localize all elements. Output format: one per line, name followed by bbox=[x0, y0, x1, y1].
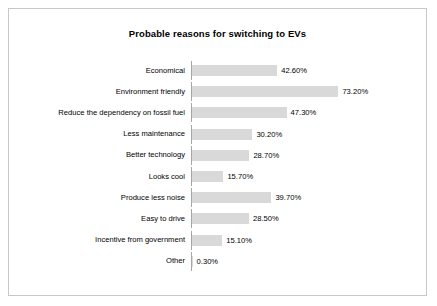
bar-track: 28.70% bbox=[191, 146, 426, 165]
bar-category-label: Looks cool bbox=[9, 173, 191, 181]
bar bbox=[192, 86, 338, 97]
bar-value-label: 73.20% bbox=[342, 87, 368, 96]
bar-row: Other0.30% bbox=[9, 252, 426, 271]
bar-row: Looks cool15.70% bbox=[9, 167, 426, 186]
bar-track: 47.30% bbox=[191, 103, 426, 122]
bar-category-label: Environment friendly bbox=[9, 88, 191, 96]
bar-row: Easy to drive28.50% bbox=[9, 209, 426, 228]
bar-value-label: 47.30% bbox=[291, 108, 317, 117]
bar-value-label: 42.60% bbox=[281, 66, 307, 75]
bar bbox=[192, 171, 223, 182]
bar-value-label: 39.70% bbox=[275, 193, 301, 202]
bar-row: Environment friendly73.20% bbox=[9, 82, 426, 101]
bar-track: 15.70% bbox=[191, 167, 426, 186]
bar-category-label: Incentive from government bbox=[9, 236, 191, 244]
bar-category-label: Other bbox=[9, 257, 191, 265]
bar bbox=[192, 213, 249, 224]
bar-value-label: 30.20% bbox=[256, 130, 282, 139]
bar-track: 0.30% bbox=[191, 252, 426, 271]
bar-track: 30.20% bbox=[191, 125, 426, 144]
bar bbox=[192, 235, 222, 246]
chart-title: Probable reasons for switching to EVs bbox=[9, 28, 426, 39]
bar-track: 15.10% bbox=[191, 231, 426, 250]
bar-value-label: 28.50% bbox=[253, 214, 279, 223]
chart-card: Probable reasons for switching to EVs Ec… bbox=[8, 8, 427, 296]
bar-category-label: Economical bbox=[9, 67, 191, 75]
bar-track: 39.70% bbox=[191, 188, 426, 207]
bar-track: 73.20% bbox=[191, 82, 426, 101]
bar-category-label: Produce less noise bbox=[9, 194, 191, 202]
bar-track: 28.50% bbox=[191, 209, 426, 228]
bar-category-label: Reduce the dependency on fossil fuel bbox=[9, 109, 191, 117]
bar-category-label: Less maintenance bbox=[9, 130, 191, 138]
bar bbox=[192, 192, 271, 203]
bar-row: Less maintenance30.20% bbox=[9, 125, 426, 144]
bar-chart-plot-area: Economical42.60%Environment friendly73.2… bbox=[9, 61, 426, 271]
bar bbox=[192, 65, 277, 76]
bar-row: Economical42.60% bbox=[9, 61, 426, 80]
bar bbox=[192, 150, 249, 161]
bar-value-label: 15.10% bbox=[226, 236, 252, 245]
bar-value-label: 0.30% bbox=[197, 257, 219, 266]
bar bbox=[192, 107, 287, 118]
bar bbox=[192, 256, 193, 267]
bar-row: Better technology28.70% bbox=[9, 146, 426, 165]
bar-category-label: Easy to drive bbox=[9, 215, 191, 223]
bar-value-label: 28.70% bbox=[253, 151, 279, 160]
bar-row: Produce less noise39.70% bbox=[9, 188, 426, 207]
bar-value-label: 15.70% bbox=[227, 172, 253, 181]
bar-row: Incentive from government15.10% bbox=[9, 231, 426, 250]
bar bbox=[192, 129, 252, 140]
bar-track: 42.60% bbox=[191, 61, 426, 80]
bar-row: Reduce the dependency on fossil fuel47.3… bbox=[9, 103, 426, 122]
bar-category-label: Better technology bbox=[9, 151, 191, 159]
